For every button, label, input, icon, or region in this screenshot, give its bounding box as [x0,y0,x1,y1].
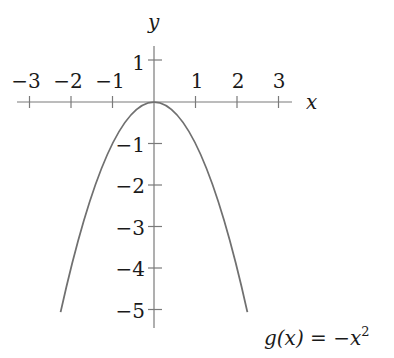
y-axis-label: y [147,10,160,34]
x-tick-label: −1 [95,69,124,93]
curve-label: g(x) = −x2 [264,324,369,350]
y-tick-label: −2 [116,174,145,198]
y-tick-label: −1 [116,133,145,157]
y-tick-label: 1 [132,51,145,75]
curve-label-exponent: 2 [361,324,369,339]
y-ticks [148,60,162,310]
x-tick-label: 2 [232,69,245,93]
x-tick-label: 3 [273,69,286,93]
x-tick-label: −2 [53,69,82,93]
x-axis-label: x [306,90,317,114]
x-tick-label: 1 [191,69,204,93]
y-tick-label: −4 [116,257,145,281]
y-tick-label: −5 [116,299,145,323]
function-plot: −3 −2 −1 1 2 3 1 −1 −2 −3 −4 −5 y x g(x)… [0,0,394,358]
curve-label-main: g(x) = −x [264,326,361,350]
y-tick-label: −3 [116,216,145,240]
x-tick-label: −3 [11,69,40,93]
x-tick-labels: −3 −2 −1 1 2 3 [11,69,285,93]
